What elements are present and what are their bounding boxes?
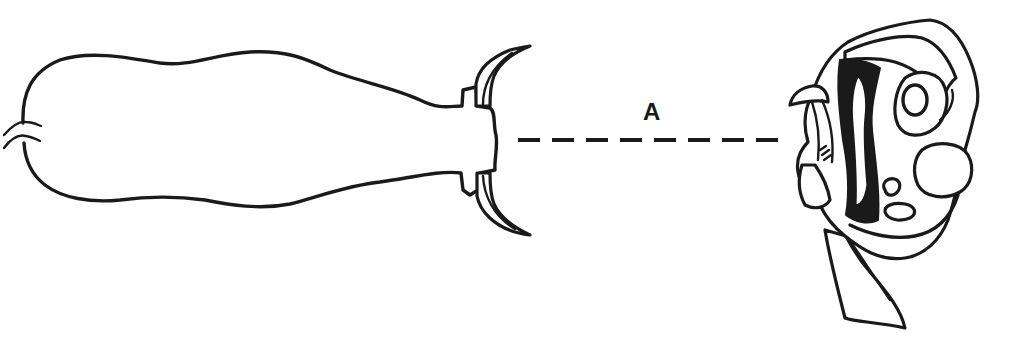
right-small-bud-1 <box>884 179 900 196</box>
right-inner-white-lobe <box>851 75 868 206</box>
right-small-bud-2 <box>885 203 915 220</box>
right-round-lobe <box>915 144 972 197</box>
left-coiled-tip-lower <box>4 136 40 148</box>
left-specimen-body <box>23 52 497 207</box>
right-specimen <box>790 20 978 328</box>
distance-label-a: A <box>643 100 660 124</box>
left-specimen <box>4 46 530 235</box>
diagram-canvas <box>0 0 1019 345</box>
left-lower-horn <box>477 173 530 235</box>
